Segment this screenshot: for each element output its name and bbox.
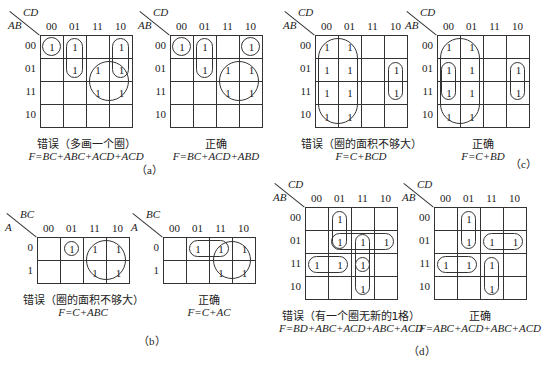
column-label: 01 (328, 192, 351, 204)
kmap-cell (484, 82, 507, 105)
kmap-grid: 11111111 (434, 207, 527, 300)
caption: 正确 (403, 135, 547, 151)
column-label: 11 (209, 222, 232, 234)
figure-label-b: （b） (138, 332, 166, 348)
grouping-loop (213, 241, 251, 279)
column-label: 10 (106, 222, 129, 234)
kmap-cell (362, 82, 385, 105)
kmap-cell (435, 208, 458, 231)
kmap-cell (171, 105, 194, 128)
row-label: 11 (146, 85, 166, 97)
kmap-cell (38, 261, 61, 284)
grouping-loop (318, 38, 358, 124)
kmap-cell (217, 105, 240, 128)
col-variable: CD (417, 178, 432, 190)
kmap-cell (385, 105, 408, 128)
column-label: 00 (437, 20, 460, 32)
row-label: 1 (13, 264, 33, 276)
row-variable: AB (283, 19, 296, 31)
kmap-cell (171, 82, 194, 105)
kmap-cell (504, 277, 527, 300)
row-label: 01 (413, 62, 433, 74)
figure-label-c: （c） (510, 155, 537, 171)
column-label: 10 (384, 20, 407, 32)
column-label: 01 (186, 222, 209, 234)
row-label: 01 (291, 62, 311, 74)
column-label: 00 (315, 20, 338, 32)
row-label: 00 (291, 39, 311, 51)
kmap-cell (481, 208, 504, 231)
figure-label-a: （a） (136, 161, 163, 177)
grouping-loop (437, 256, 477, 273)
grouping-loop (355, 257, 370, 295)
column-label: 10 (506, 20, 529, 32)
column-label: 01 (457, 192, 480, 204)
kmap-cell (61, 261, 84, 284)
kmap-cell (64, 82, 87, 105)
row-label: 1 (139, 264, 159, 276)
kmap-cell (87, 36, 110, 59)
kmap-cell (240, 105, 263, 128)
column-label: 11 (351, 192, 374, 204)
column-label: 00 (163, 222, 186, 234)
grouping-loop (510, 62, 525, 100)
col-variable: CD (153, 6, 168, 18)
kmap-cell (484, 105, 507, 128)
kmap-cell (41, 82, 64, 105)
column-label: 10 (232, 222, 255, 234)
caption: 正确 (400, 307, 547, 323)
column-label: 11 (216, 20, 239, 32)
row-variable: A (5, 221, 12, 233)
kmap-cell (38, 238, 61, 261)
kmap-cell (375, 254, 398, 277)
grouping-loop (219, 61, 259, 101)
kmap-cell (504, 254, 527, 277)
kmap-cell (87, 105, 110, 128)
kmap-cell (435, 277, 458, 300)
row-label: 11 (410, 257, 430, 269)
row-label: 10 (410, 280, 430, 292)
column-label: 01 (63, 20, 86, 32)
row-label: 10 (413, 108, 433, 120)
row-label: 01 (410, 234, 430, 246)
column-label: 01 (460, 20, 483, 32)
grouping-loop (483, 233, 523, 250)
row-label: 00 (281, 211, 301, 223)
kmap-cell (110, 105, 133, 128)
caption: 正确 (136, 135, 296, 151)
kmap-cell (41, 105, 64, 128)
grouping-loop (484, 257, 499, 295)
boolean-formula: F=ABC+ACD+ABC+ACD (390, 322, 547, 334)
column-label: 11 (86, 20, 109, 32)
kmap-cell (435, 231, 458, 254)
kmap-cell (217, 36, 240, 59)
grouping-loop (241, 37, 260, 56)
column-label: 00 (40, 20, 63, 32)
grouping-loop (172, 37, 191, 56)
row-label: 00 (410, 211, 430, 223)
kmap-cell (385, 36, 408, 59)
grouping-loop (441, 62, 456, 100)
row-label: 01 (16, 62, 36, 74)
kmap-cell (194, 82, 217, 105)
column-label: 10 (503, 192, 526, 204)
row-label: 00 (146, 39, 166, 51)
kmap-cell (64, 105, 87, 128)
kmap-cell (362, 36, 385, 59)
kmap-cell (504, 208, 527, 231)
row-variable: AB (8, 19, 21, 31)
grouping-loop (86, 240, 126, 280)
row-label: 11 (413, 85, 433, 97)
row-label: 11 (281, 257, 301, 269)
kmap-cell (375, 277, 398, 300)
row-label: 01 (146, 62, 166, 74)
grouping-loop (388, 62, 403, 100)
kmap-cell (41, 59, 64, 82)
row-variable: AB (273, 191, 286, 203)
caption: 正确 (129, 291, 289, 307)
kmap-cell (375, 208, 398, 231)
col-variable: CD (298, 6, 313, 18)
grouping-loop (196, 38, 213, 78)
kmap-grid: 11111111 (305, 207, 398, 300)
kmap-cell (329, 277, 352, 300)
